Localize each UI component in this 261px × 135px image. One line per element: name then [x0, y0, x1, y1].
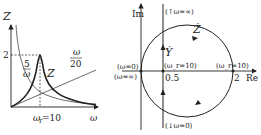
z-locus-label: Ż — [192, 22, 201, 36]
line-arrow-lower — [161, 89, 166, 95]
capacitive-den: ω — [23, 69, 31, 79]
circle-arrow-bottom — [195, 100, 201, 105]
top-annotation: (↑ω=∞) — [165, 8, 194, 16]
left-annotation-bottom: (ω=∞) — [114, 73, 137, 81]
y-locus-label: Ẏ — [165, 45, 174, 59]
y-tick-2: 2 — [3, 50, 9, 60]
tick-two: 2 — [234, 73, 240, 83]
right-plot: Im (↑ω=∞) Ż Ẏ (ω=0) (ω=∞) (ω_r=10) (ω_r=… — [114, 4, 258, 130]
im-axis-label: Im — [132, 9, 145, 19]
left-annotation-top: (ω=0) — [117, 63, 139, 71]
left-y-axis-label: Z — [2, 10, 11, 23]
diagram-canvas: Z 2 5 ω Z ω 20 ω r =10 ω Im (↑ω=∞) Ż — [0, 0, 261, 135]
re-axis-label: Re — [246, 73, 258, 83]
z-curve-label: Z — [46, 67, 55, 80]
capacitive-num: 5 — [24, 59, 30, 69]
bottom-annotation: (↓ω=0) — [165, 122, 193, 130]
left-x-axis-label: ω — [90, 113, 98, 123]
origin-point — [140, 70, 143, 73]
left-plot: Z 2 5 ω Z ω 20 ω r =10 ω — [2, 10, 98, 125]
circle-arrow-top — [192, 36, 198, 41]
resonance-value: =10 — [42, 113, 61, 123]
inductive-den: 20 — [70, 59, 82, 69]
inductive-num: ω — [73, 47, 81, 57]
tick-half: 0.5 — [165, 73, 180, 83]
center-annotation: (ω_r=10) — [164, 62, 197, 70]
right-annotation: (ω_r=10) — [216, 62, 249, 70]
